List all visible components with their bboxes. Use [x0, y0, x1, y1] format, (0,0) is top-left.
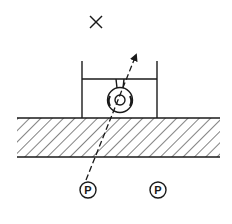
x-mark-icon	[90, 16, 102, 28]
valve-outer-circle	[108, 88, 133, 113]
p-marker-label: P	[154, 184, 161, 196]
valve-stem	[116, 79, 117, 88]
hatched-slab	[17, 118, 220, 157]
p-marker-left: P	[80, 182, 96, 198]
diagram-canvas: P P	[0, 0, 232, 224]
p-marker-right: P	[150, 182, 166, 198]
p-marker-label: P	[84, 184, 91, 196]
